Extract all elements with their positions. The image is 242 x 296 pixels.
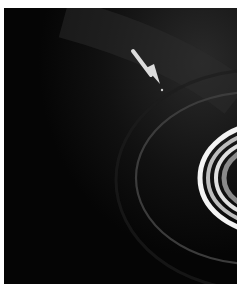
saturn-rings-image	[4, 8, 237, 284]
space-photo	[4, 8, 237, 284]
moon-dot	[161, 89, 163, 91]
caption	[4, 286, 237, 296]
